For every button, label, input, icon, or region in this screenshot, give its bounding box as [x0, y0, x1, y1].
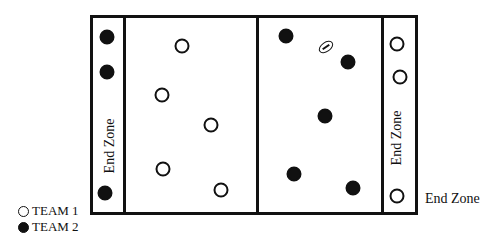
- team2-player-icon: [287, 167, 302, 182]
- team1-player-icon: [204, 118, 219, 133]
- legend-team2: TEAM 2: [18, 219, 79, 235]
- team2-player-icon: [279, 29, 294, 44]
- team2-player-icon: [318, 109, 333, 124]
- playing-field: End Zone End Zone: [90, 15, 418, 215]
- filled-circle-icon: [18, 222, 29, 233]
- left-end-zone-label: End Zone: [102, 119, 118, 174]
- team2-player-icon: [98, 186, 113, 201]
- team1-player-icon: [156, 162, 171, 177]
- right-end-zone-label: End Zone: [389, 111, 405, 166]
- team2-player-icon: [100, 30, 115, 45]
- hollow-circle-icon: [18, 206, 29, 217]
- team2-player-icon: [341, 55, 356, 70]
- team1-player-icon: [390, 37, 405, 52]
- legend-team1: TEAM 1: [18, 203, 79, 219]
- midfield-line: [256, 18, 259, 212]
- legend: TEAM 1 TEAM 2: [18, 203, 79, 235]
- team1-player-icon: [390, 189, 405, 204]
- team1-player-icon: [214, 183, 229, 198]
- legend-team2-label: TEAM 2: [32, 219, 79, 235]
- end-zone-caption: End Zone: [425, 191, 480, 207]
- team1-player-icon: [155, 88, 170, 103]
- left-goal-line: [123, 18, 126, 212]
- right-goal-line: [381, 18, 384, 212]
- team1-player-icon: [393, 70, 408, 85]
- team2-player-icon: [100, 65, 115, 80]
- team2-player-icon: [346, 181, 361, 196]
- legend-team1-label: TEAM 1: [32, 203, 79, 219]
- team1-player-icon: [175, 39, 190, 54]
